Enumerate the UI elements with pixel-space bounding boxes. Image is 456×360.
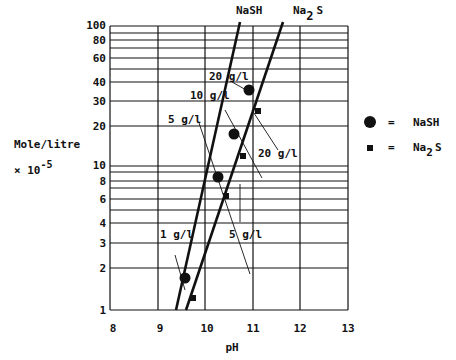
svg-text:3: 3 bbox=[99, 237, 106, 250]
svg-text:13: 13 bbox=[341, 322, 354, 335]
legend-nash-marker bbox=[364, 116, 376, 128]
svg-text:2: 2 bbox=[99, 262, 106, 275]
nash-marker-10gl bbox=[229, 129, 240, 140]
svg-text:10: 10 bbox=[200, 322, 213, 335]
y-axis-multiplier: × 10-5 bbox=[14, 159, 53, 177]
na2s-marker-20gl bbox=[255, 108, 261, 114]
nash-marker-5gl bbox=[213, 172, 224, 183]
na2s-marker-5gl bbox=[223, 193, 229, 199]
svg-text:30: 30 bbox=[93, 95, 106, 108]
svg-text:40: 40 bbox=[93, 76, 106, 89]
svg-text:8: 8 bbox=[99, 175, 106, 188]
nash-marker-20gl bbox=[244, 85, 255, 96]
y-axis-label: Mole/litre bbox=[14, 138, 81, 151]
y-tick-labels: 100 80 60 40 30 20 10 8 6 4 3 2 1 bbox=[86, 19, 106, 317]
svg-text:20 g/l: 20 g/l bbox=[258, 147, 298, 160]
na2s-marker-1gl bbox=[190, 295, 196, 301]
svg-text:60: 60 bbox=[93, 52, 106, 65]
legend-na2s-label: Na2S bbox=[413, 141, 442, 159]
chart: 100 80 60 40 30 20 10 8 6 4 3 2 1 8 9 10… bbox=[0, 0, 456, 360]
svg-text:=: = bbox=[388, 141, 395, 154]
svg-text:1 g/l: 1 g/l bbox=[160, 228, 193, 241]
svg-text:12: 12 bbox=[293, 322, 306, 335]
na2s-line-label: Na2S bbox=[293, 4, 323, 23]
annotations: 20 g/l 10 g/l 5 g/l 20 g/l 5 g/l 1 g/l bbox=[160, 70, 298, 241]
svg-text:10: 10 bbox=[93, 159, 106, 172]
svg-text:1: 1 bbox=[99, 304, 106, 317]
svg-text:5 g/l: 5 g/l bbox=[168, 113, 201, 126]
legend-na2s-marker bbox=[367, 145, 373, 151]
svg-text:80: 80 bbox=[93, 34, 106, 47]
x-tick-labels: 8 9 10 11 12 13 bbox=[110, 322, 355, 335]
legend: = NaSH = Na2S bbox=[364, 116, 442, 159]
svg-text:9: 9 bbox=[157, 322, 164, 335]
svg-text:11: 11 bbox=[246, 322, 260, 335]
svg-text:20 g/l: 20 g/l bbox=[209, 70, 249, 83]
svg-text:10 g/l: 10 g/l bbox=[190, 89, 230, 102]
svg-text:8: 8 bbox=[110, 322, 117, 335]
nash-line-label: NaSH bbox=[236, 4, 263, 17]
svg-text:4: 4 bbox=[99, 217, 106, 230]
svg-text:=: = bbox=[388, 116, 395, 129]
x-axis-label: pH bbox=[225, 341, 238, 354]
nash-marker-1gl bbox=[180, 273, 191, 284]
svg-text:20: 20 bbox=[93, 120, 106, 133]
legend-nash-label: NaSH bbox=[413, 116, 440, 129]
na2s-marker-10gl bbox=[240, 153, 246, 159]
svg-text:100: 100 bbox=[86, 19, 106, 32]
svg-text:5 g/l: 5 g/l bbox=[229, 228, 262, 241]
svg-text:6: 6 bbox=[99, 193, 106, 206]
